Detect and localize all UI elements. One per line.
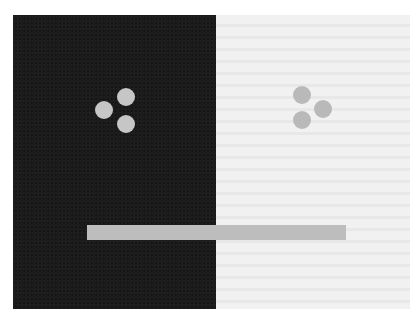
light-panel — [216, 15, 410, 309]
circle-light-right — [314, 100, 332, 118]
dark-panel — [13, 15, 216, 309]
circle-light-bottom-left — [293, 111, 311, 129]
gray-bar-crossing-panels — [87, 225, 346, 240]
circle-dark-bottom-right — [117, 115, 135, 133]
contrast-illusion-figure — [0, 0, 420, 320]
circle-dark-left — [95, 101, 113, 119]
circle-light-top-left — [293, 86, 311, 104]
circle-dark-top-right — [117, 88, 135, 106]
